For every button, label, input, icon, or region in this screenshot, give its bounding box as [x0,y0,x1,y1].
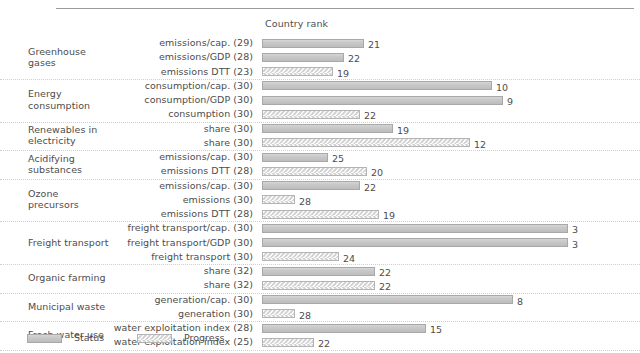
status-swatch-icon [27,334,62,343]
bar-value-label: 22 [364,110,376,121]
status-bar [262,238,568,247]
row-label: emissions DTT (28) [161,165,253,176]
bar-value-label: 3 [572,224,578,235]
row-label: consumption/GDP (30) [144,94,253,105]
bar-value-label: 15 [430,324,442,335]
chart-row: consumption (30)22 [0,107,640,121]
progress-bar [262,338,314,347]
bar-value-label: 25 [332,153,344,164]
progress-bar [262,67,333,76]
progress-bar [262,252,339,261]
row-label: freight transport/cap. (30) [128,222,253,233]
group-separator [0,221,640,222]
chart-row: emissions/GDP (28)22 [0,50,640,64]
chart-row: emissions (30)28 [0,193,640,207]
bar-value-label: 22 [318,338,330,349]
status-bar [262,39,364,48]
group-label: Energy consumption [28,88,90,110]
chart-row: emissions/cap. (29)21 [0,36,640,50]
row-label: emissions/cap. (30) [159,180,253,191]
chart-row: emissions/cap. (30)22 [0,179,640,193]
status-bar [262,96,503,105]
group-label: Organic farming [28,272,106,283]
chart-row: freight transport (30)24 [0,250,640,264]
bar-value-label: 21 [368,39,380,50]
bar-value-label: 12 [474,139,486,150]
bar-value-label: 10 [496,82,508,93]
bar-value-label: 22 [379,281,391,292]
row-label: emissions/cap. (29) [159,37,253,48]
chart-row: freight transport/cap. (30)3 [0,221,640,235]
group-label: Renewables in electricity [28,124,97,146]
status-bar [262,81,492,90]
progress-bar [262,195,295,204]
row-label: consumption (30) [168,108,253,119]
row-label: consumption/cap. (30) [145,80,253,91]
bar-value-label: 22 [364,182,376,193]
row-label: emissions DTT (28) [161,208,253,219]
bar-value-label: 22 [348,53,360,64]
bar-value-label: 9 [507,96,513,107]
status-bar [262,53,344,62]
bar-value-label: 19 [337,68,349,79]
progress-bar [262,309,295,318]
row-label: share (30) [204,137,253,148]
status-bar [262,181,360,190]
group-separator [0,264,640,265]
chart-row: emissions DTT (28)20 [0,164,640,178]
bar-value-label: 8 [517,296,523,307]
top-divider [56,8,634,9]
row-label: share (30) [204,123,253,134]
group-separator [0,122,640,123]
status-bar [262,224,568,233]
progress-swatch-icon [137,334,172,343]
row-label: emissions/GDP (28) [159,51,253,62]
bar-value-label: 20 [371,167,383,178]
group-label: Freight transport [28,237,109,248]
progress-bar [262,281,375,290]
row-label: freight transport (30) [151,251,253,262]
status-bar [262,267,375,276]
row-label: freight transport/GDP (30) [127,237,253,248]
row-label: share (32) [204,279,253,290]
bar-value-label: 22 [379,267,391,278]
group-separator [0,179,640,180]
row-label: share (32) [204,265,253,276]
column-header-country-rank: Country rank [265,18,328,29]
chart-row: consumption/cap. (30)10 [0,79,640,93]
status-bar [262,124,393,133]
row-label: emissions/cap. (30) [159,151,253,162]
group-separator [0,293,640,294]
chart-row: emissions DTT (23)19 [0,65,640,79]
group-separator [0,321,640,322]
group-label: Municipal waste [28,301,105,312]
row-label: generation (30) [178,308,253,319]
legend-label: Status [74,332,104,343]
row-label: emissions DTT (23) [161,66,253,77]
country-rank-chart: Country rank emissions/cap. (29)21emissi… [0,0,640,353]
chart-row: emissions/cap. (30)25 [0,150,640,164]
bar-value-label: 28 [299,196,311,207]
row-label: generation/cap. (30) [155,294,253,305]
chart-row: consumption/GDP (30)9 [0,93,640,107]
bar-value-label: 3 [572,239,578,250]
progress-bar [262,210,379,219]
progress-bar [262,110,360,119]
row-label: emissions (30) [183,194,253,205]
group-separator [0,150,640,151]
group-separator [0,79,640,80]
progress-bar [262,167,367,176]
group-label: Greenhouse gases [28,46,86,68]
progress-bar [262,138,470,147]
bar-value-label: 19 [397,125,409,136]
bar-value-label: 28 [299,310,311,321]
group-label: Acidifying substances [28,153,82,175]
status-bar [262,153,328,162]
bar-value-label: 19 [383,210,395,221]
group-label: Ozone precursors [28,188,79,210]
chart-row: emissions DTT (28)19 [0,207,640,221]
status-bar [262,324,426,333]
legend-label: Progress [184,332,225,343]
bar-value-label: 24 [343,253,355,264]
status-bar [262,295,513,304]
